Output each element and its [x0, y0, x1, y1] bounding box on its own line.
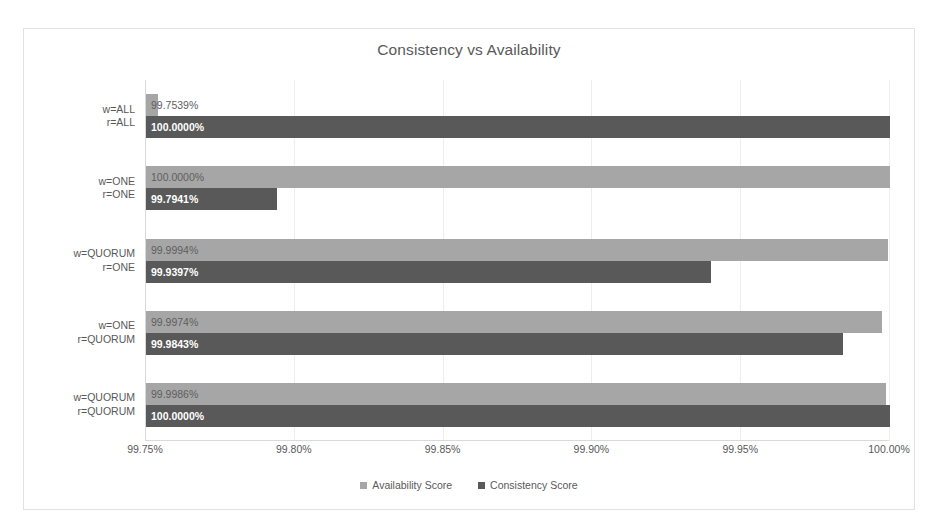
bar-row-consistency[interactable]: 100.0000%	[146, 116, 889, 138]
bar-group: w=QUORUMr=ONE99.9994%99.9397%	[146, 239, 889, 283]
bar-consistency[interactable]	[146, 333, 843, 355]
bar-availability[interactable]	[146, 383, 886, 405]
category-label: w=ALLr=ALL	[25, 103, 135, 130]
bar-availability[interactable]	[146, 166, 890, 188]
bar-row-availability[interactable]: 100.0000%	[146, 166, 889, 188]
category-label-line: w=ONE	[25, 175, 135, 189]
legend-label: Availability Score	[372, 479, 452, 491]
category-label: w=ONEr=ONE	[25, 175, 135, 202]
bar-value-label: 99.9994%	[151, 244, 198, 255]
bar-consistency[interactable]	[146, 116, 890, 138]
category-label-line: w=ONE	[25, 319, 135, 333]
category-label: w=QUORUMr=QUORUM	[25, 391, 135, 418]
category-label-line: r=QUORUM	[25, 405, 135, 419]
plot-area: w=ALLr=ALL99.7539%100.0000%w=ONEr=ONE100…	[145, 80, 889, 441]
x-tick-label: 100.00%	[868, 443, 909, 455]
bar-value-label: 99.9986%	[151, 389, 198, 400]
category-label-line: w=ALL	[25, 103, 135, 117]
category-label: w=ONEr=QUORUM	[25, 319, 135, 346]
bar-group: w=ONEr=ONE100.0000%99.7941%	[146, 166, 889, 210]
bar-row-availability[interactable]: 99.9994%	[146, 239, 889, 261]
bar-value-label: 99.7941%	[151, 194, 198, 205]
x-tick-label: 99.80%	[276, 443, 312, 455]
bar-group: w=QUORUMr=QUORUM99.9986%100.0000%	[146, 383, 889, 427]
bar-row-consistency[interactable]: 100.0000%	[146, 405, 889, 427]
bar-value-label: 100.0000%	[151, 172, 204, 183]
chart-title: Consistency vs Availability	[24, 41, 914, 59]
bar-row-consistency[interactable]: 99.9397%	[146, 261, 889, 283]
bar-group: w=ALLr=ALL99.7539%100.0000%	[146, 94, 889, 138]
x-tick-label: 99.90%	[574, 443, 610, 455]
bar-row-consistency[interactable]: 99.7941%	[146, 188, 889, 210]
bar-group: w=ONEr=QUORUM99.9974%99.9843%	[146, 311, 889, 355]
bar-value-label: 100.0000%	[151, 411, 204, 422]
x-tick-label: 99.95%	[722, 443, 758, 455]
category-label-line: r=ALL	[25, 116, 135, 130]
x-axis-line	[145, 440, 889, 441]
category-label-line: r=ONE	[25, 188, 135, 202]
chart-legend: Availability ScoreConsistency Score	[24, 479, 914, 491]
bar-row-availability[interactable]: 99.7539%	[146, 94, 889, 116]
bar-row-availability[interactable]: 99.9986%	[146, 383, 889, 405]
x-axis-tick-labels: 99.75%99.80%99.85%99.90%99.95%100.00%	[145, 443, 889, 463]
legend-swatch-icon	[360, 482, 367, 489]
bar-value-label: 99.9974%	[151, 316, 198, 327]
x-tick-label: 99.85%	[425, 443, 461, 455]
category-label-line: w=QUORUM	[25, 391, 135, 405]
bar-row-availability[interactable]: 99.9974%	[146, 311, 889, 333]
category-label-line: r=ONE	[25, 261, 135, 275]
category-label-line: r=QUORUM	[25, 333, 135, 347]
category-label-line: w=QUORUM	[25, 247, 135, 261]
bar-availability[interactable]	[146, 311, 882, 333]
bar-availability[interactable]	[146, 239, 888, 261]
legend-entry[interactable]: Availability Score	[360, 479, 452, 491]
bar-consistency[interactable]	[146, 261, 711, 283]
bar-value-label: 99.7539%	[151, 100, 198, 111]
legend-swatch-icon	[478, 482, 485, 489]
bar-value-label: 100.0000%	[151, 122, 204, 133]
category-label: w=QUORUMr=ONE	[25, 247, 135, 274]
legend-label: Consistency Score	[490, 479, 578, 491]
legend-entry[interactable]: Consistency Score	[478, 479, 578, 491]
chart-container: Consistency vs Availability w=ALLr=ALL99…	[23, 28, 915, 510]
bar-value-label: 99.9397%	[151, 266, 198, 277]
bar-row-consistency[interactable]: 99.9843%	[146, 333, 889, 355]
x-tick-label: 99.75%	[127, 443, 163, 455]
bar-value-label: 99.9843%	[151, 338, 198, 349]
bar-consistency[interactable]	[146, 405, 890, 427]
